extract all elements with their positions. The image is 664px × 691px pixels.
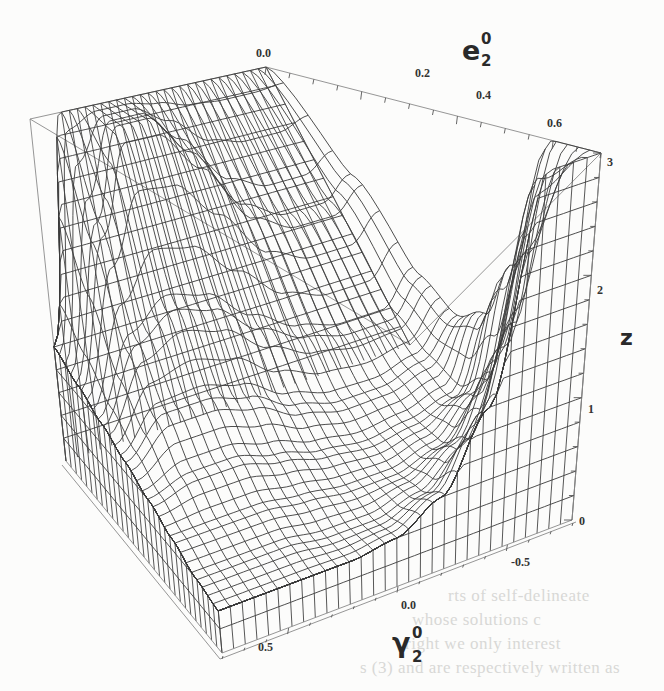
x-tick-mark <box>456 116 457 124</box>
y-tick-mark <box>397 587 398 593</box>
mesh-wall-rung <box>64 438 220 629</box>
y-tick-mark <box>331 614 332 617</box>
mesh-line-constant-e <box>109 286 431 436</box>
mesh-wall-line <box>109 102 181 423</box>
mesh-line-constant-e <box>180 229 526 552</box>
mesh-wall-line <box>373 550 374 595</box>
mesh-wall-rung <box>218 349 585 611</box>
x-tick-mark <box>433 110 434 115</box>
x-tick-mark <box>385 98 386 103</box>
mesh-wall-line <box>93 410 103 506</box>
z-axis-label: z <box>620 325 633 350</box>
mesh-line-constant-gamma <box>266 67 601 316</box>
x-tick-mark <box>313 79 314 84</box>
mesh-line-constant-e <box>82 135 363 390</box>
mesh-wall-line <box>467 440 471 560</box>
y-tick-label: 0.0 <box>401 598 416 612</box>
mesh-wall-line <box>490 394 496 551</box>
x-tick-mark <box>528 135 529 140</box>
mesh-line-constant-e <box>142 312 476 491</box>
y-axis-label-sup: 0 <box>412 624 422 642</box>
x-tick-mark <box>480 122 481 127</box>
x-axis-label-base: e <box>462 35 480 66</box>
z-tick-label: 1 <box>588 402 594 416</box>
mesh-wall-line <box>71 375 82 481</box>
x-tick-label: 0.6 <box>547 116 562 130</box>
mesh-wall-line <box>314 575 316 617</box>
mesh-line-constant-e <box>175 261 518 543</box>
mesh-wall-line <box>230 606 234 648</box>
mesh-wall-line <box>278 589 281 631</box>
y-tick-label: -0.5 <box>511 555 530 569</box>
y-axis-label-sub: 2 <box>412 648 422 666</box>
mesh-wall-line <box>502 323 512 547</box>
mesh-line-constant-gamma <box>219 77 513 427</box>
y-tick-mark <box>375 598 376 601</box>
x-tick-mark <box>337 85 338 90</box>
mesh-wall-line <box>175 543 181 602</box>
axis-ticks <box>222 67 601 659</box>
mesh-line-constant-e <box>197 142 556 580</box>
surface-plot: 0.0 0.2 0.4 0.6 e 2 0 3 2 1 0 z 0.5 0.0 … <box>0 0 664 691</box>
mesh-wall-line <box>101 103 169 426</box>
x-tick-mark <box>409 104 410 109</box>
mesh-wall-line <box>266 593 269 635</box>
mesh-wall-line <box>218 611 222 653</box>
x-axis-label-sub: 2 <box>481 52 491 70</box>
mesh-wall-line <box>325 571 327 613</box>
mesh-wall-line <box>164 527 170 589</box>
mesh-wall-rung <box>218 251 593 611</box>
x-tick-mark <box>576 147 577 152</box>
mesh-line-constant-e <box>120 308 449 455</box>
box-edge <box>62 465 220 659</box>
x-tick-label: 0.4 <box>476 88 491 102</box>
x-tick-label: 0.2 <box>415 66 430 80</box>
y-tick-mark <box>353 606 354 609</box>
x-tick-mark <box>504 128 505 133</box>
y-axis-label: γ 2 0 <box>392 624 422 666</box>
mesh-wall-line <box>170 536 176 596</box>
mesh-wall-line <box>514 233 530 542</box>
mesh-wall-rung <box>218 324 587 611</box>
mesh-wall-line <box>250 71 387 353</box>
y-tick-mark <box>244 648 245 651</box>
y-tick-mark <box>441 573 442 576</box>
x-tick-label: 0.0 <box>256 46 271 60</box>
page: rts of self-delineate whose solutions c … <box>0 0 664 691</box>
mesh-wall-line <box>124 98 203 414</box>
z-tick-label: 0 <box>579 514 585 528</box>
mesh-wall-line <box>420 516 421 578</box>
mesh-wall-line <box>361 557 362 600</box>
box-edge <box>572 153 601 520</box>
y-tick-mark <box>506 545 507 551</box>
mesh-wall-line <box>349 562 350 604</box>
y-axis-label-base: γ <box>392 627 410 658</box>
y-tick-mark <box>288 628 289 634</box>
mesh-wall-line <box>254 598 257 640</box>
y-tick-label: 0.5 <box>258 640 273 654</box>
x-tick-mark <box>361 92 362 100</box>
mesh-wall-line <box>302 580 304 622</box>
y-tick-mark <box>419 581 420 584</box>
mesh-wall-line <box>203 81 318 376</box>
y-tick-mark <box>463 565 464 568</box>
z-tick-label: 2 <box>597 283 603 297</box>
y-tick-mark <box>222 656 223 659</box>
mesh-wall-line <box>290 584 292 626</box>
mesh-line-constant-gamma <box>203 81 484 450</box>
mesh-wall-line <box>242 602 245 644</box>
mesh-wall-line <box>560 158 587 525</box>
mesh-wall-line <box>432 503 433 573</box>
mesh-wall-rung <box>218 226 595 611</box>
x-tick-mark <box>289 73 290 78</box>
x-axis-label: e 2 0 <box>462 30 491 70</box>
mesh-line-constant-e <box>148 313 484 499</box>
mesh-wall-line <box>455 472 457 564</box>
y-tick-mark <box>310 623 311 626</box>
mesh-line-constant-gamma <box>211 79 497 443</box>
mesh-wall-line <box>444 495 445 569</box>
z-tick-label: 3 <box>607 155 613 169</box>
mesh-wall-rung <box>218 373 583 611</box>
mesh-wall-line <box>85 107 146 434</box>
x-axis-label-sup: 0 <box>481 30 491 48</box>
